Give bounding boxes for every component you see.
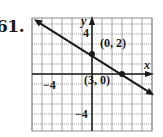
point-label: (3, 0)	[84, 73, 110, 87]
point-label: (0, 2)	[100, 36, 126, 50]
y-axis-arrow-icon	[89, 16, 95, 25]
line-arrow-start-icon	[34, 19, 43, 26]
x-axis-label: x	[143, 58, 150, 72]
tick-label-y: 4	[83, 26, 89, 40]
tick-label-x: −4	[43, 78, 56, 92]
point-marker	[119, 71, 125, 77]
axis-labels: xy−44−4	[43, 14, 150, 121]
tick-label-y: −4	[75, 107, 88, 121]
coordinate-graph: (0, 2)(3, 0) xy−44−4	[0, 0, 163, 137]
point-marker	[89, 51, 95, 57]
